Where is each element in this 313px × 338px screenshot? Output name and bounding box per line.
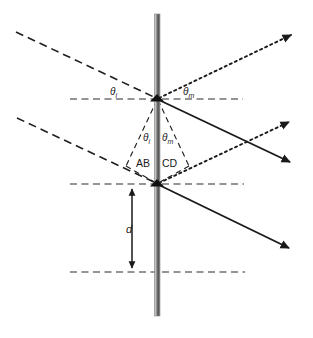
grating-bar — [155, 14, 161, 316]
transmitted-ray-bottom — [159, 185, 289, 248]
slit-vertex-top — [150, 94, 164, 102]
angle-label-theta-i-top: θi — [110, 87, 117, 99]
angle-label-theta-m-middle: θm — [162, 133, 173, 145]
angle-label-theta-m-top: θm — [183, 87, 194, 99]
segment-label-cd: CD — [162, 158, 177, 169]
incident-ray-upper — [16, 32, 156, 98]
angle-label-theta-i-middle: θi — [143, 133, 150, 145]
incident-rays — [16, 32, 156, 183]
diagram-canvas — [0, 0, 313, 338]
segment-label-ab: AB — [136, 158, 150, 169]
diffracted-ray-top — [159, 35, 291, 98]
incident-ray-lower — [17, 118, 156, 183]
slit-vertex-bottom — [150, 179, 164, 187]
spacing-label-d: d — [126, 224, 132, 235]
diffraction-grating-diagram: θi θm θi θm AB CD d — [0, 0, 313, 338]
